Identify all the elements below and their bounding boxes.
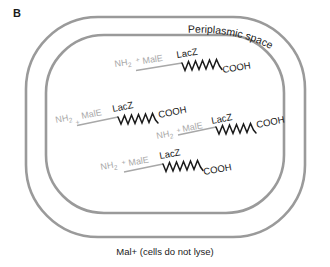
fusion-4-n-terminus: NH2 <box>100 159 119 173</box>
fusion-protein-1: NH2 + MalE LacZ COOH <box>114 46 252 75</box>
periplasmic-space-label: Periplasmic space <box>188 23 276 51</box>
fusion-1-n-terminus: NH2 <box>114 56 133 70</box>
fusion-2-c-terminus: COOH <box>157 104 187 120</box>
fusion-4-c-terminus: COOH <box>202 161 232 177</box>
cell-diagram: Periplasmic space NH2 + MalE LacZ COOH <box>0 0 330 267</box>
fusion-1-c-terminus: COOH <box>222 60 252 75</box>
fusion-2-lacz-zigzag <box>118 114 158 125</box>
fusion-2-male-label: MalE <box>80 107 102 121</box>
fusion-3-male-label: MalE <box>181 120 203 134</box>
fusion-4-lacz-zigzag <box>163 161 203 172</box>
fusion-3-lacz-label: LacZ <box>210 111 233 126</box>
fusion-3-c-terminus: COOH <box>255 114 285 130</box>
fusion-1-n-superscript: + <box>135 56 140 64</box>
fusion-2-n-superscript: + <box>75 118 80 126</box>
fusion-3-n-terminus: NH2 <box>155 128 174 142</box>
fusion-4-n-superscript: + <box>121 158 126 166</box>
fusion-3-n-superscript: + <box>176 126 181 134</box>
fusion-2-lacz-label: LacZ <box>111 99 134 114</box>
figure-caption: Mal+ (cells do not lyse) <box>116 246 213 257</box>
fusion-2-n-terminus: NH2 <box>54 112 73 126</box>
fusion-4-lacz-label: LacZ <box>158 146 181 161</box>
fusion-1-lacz-zigzag <box>182 60 222 71</box>
fusion-protein-2: NH2 + MalE LacZ COOH <box>54 99 187 126</box>
fusion-1-male-label: MalE <box>142 53 164 66</box>
figure-panel-b: B Periplasmic space NH2 + MalE <box>0 0 330 267</box>
fusion-3-lacz-zigzag <box>216 124 256 135</box>
fusion-4-male-label: MalE <box>128 155 150 168</box>
fusion-protein-4: NH2 + MalE LacZ COOH <box>100 146 233 177</box>
fusion-1-lacz-label: LacZ <box>176 46 199 60</box>
